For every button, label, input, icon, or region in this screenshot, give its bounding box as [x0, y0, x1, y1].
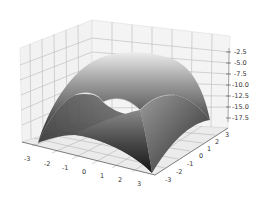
- x-tick-label: -1: [62, 164, 68, 172]
- y-tick-label: 2: [215, 138, 219, 146]
- z-tick-label: -17.5: [232, 114, 249, 122]
- z-tick-label: -7.5: [234, 70, 247, 78]
- y-tick-label: -3: [165, 176, 171, 184]
- surface-plot-3d: -2.5 -5.0 -7.5 -10.0 -12.5 -15.0 -17.5 -…: [0, 0, 264, 199]
- y-tick-label: -2: [176, 168, 182, 176]
- x-tick-label: -2: [44, 160, 50, 168]
- x-tick-label: 2: [118, 176, 122, 184]
- y-tick-label: 1: [207, 145, 211, 153]
- x-tick-label: 1: [100, 172, 104, 180]
- z-tick-label: -2.5: [234, 48, 247, 56]
- z-tick-label: -12.5: [232, 92, 249, 100]
- z-tick-label: -10.0: [232, 81, 249, 89]
- z-tick-label: -15.0: [232, 103, 249, 111]
- y-tick-label: 3: [225, 131, 229, 139]
- x-tick-label: 3: [137, 180, 141, 188]
- y-tick-label: 0: [199, 152, 203, 160]
- x-tick-label: 0: [82, 168, 86, 176]
- x-tick-label: -3: [24, 155, 30, 163]
- y-tick-label: -1: [187, 160, 193, 168]
- z-tick-label: -5.0: [234, 59, 247, 67]
